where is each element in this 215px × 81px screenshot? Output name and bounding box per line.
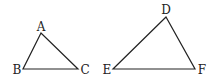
triangle-abc: A B C [13, 20, 90, 77]
triangle-def-shape [113, 17, 195, 69]
vertex-label-c: C [80, 63, 89, 77]
vertex-label-a: A [36, 20, 46, 34]
vertex-label-d: D [161, 3, 171, 17]
vertex-label-e: E [103, 63, 112, 77]
triangles-diagram: A B C D E F [0, 0, 215, 81]
vertex-label-b: B [13, 63, 22, 77]
triangle-abc-shape [23, 33, 78, 69]
vertex-label-f: F [198, 63, 206, 77]
triangle-def: D E F [103, 3, 207, 77]
